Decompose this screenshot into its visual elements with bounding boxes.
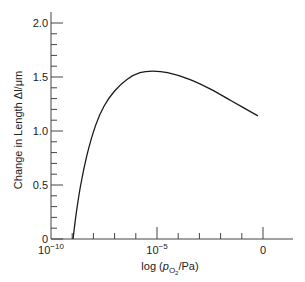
x-axis-ticks: 10−1010−50 [38, 227, 266, 256]
y-axis-ticks: 00.51.01.52.0 [33, 17, 63, 245]
y-axis-title: Change in Length Δl/μm [12, 71, 24, 189]
axes [51, 12, 293, 239]
y-tick-label: 1.5 [33, 71, 48, 83]
y-tick-label: 2.0 [33, 17, 48, 29]
x-tick-label: 10−5 [146, 242, 168, 256]
x-tick-label: 10−10 [38, 242, 64, 256]
chart-container: 00.51.01.52.0 10−1010−50 Change in Lengt… [0, 0, 305, 282]
x-tick-label: 0 [260, 244, 266, 256]
y-tick-label: 1.0 [33, 125, 48, 137]
data-series-line [73, 71, 258, 239]
y-tick-label: 0.5 [33, 179, 48, 191]
line-chart: 00.51.01.52.0 10−1010−50 Change in Lengt… [0, 0, 305, 282]
x-axis-title: log (pO2/Pa) [141, 260, 198, 276]
